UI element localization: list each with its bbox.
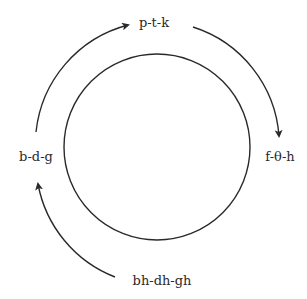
arrow-ptk-to-fth <box>193 27 279 136</box>
arrow-bdg-to-ptk <box>36 25 128 132</box>
center-circle <box>64 54 250 240</box>
node-label-left: b-d-g <box>19 149 53 164</box>
node-label-right: f-θ-h <box>265 149 294 164</box>
arrow-bhdhgh-to-bdg <box>38 184 115 277</box>
node-label-bottom: bh-dh-gh <box>133 273 192 288</box>
node-label-top: p-t-k <box>139 15 169 30</box>
